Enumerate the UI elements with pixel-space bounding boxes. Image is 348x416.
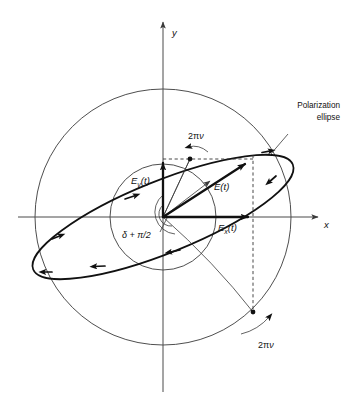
label-field-Ex-arg: (t) xyxy=(228,222,237,233)
label-field-Ey: Ey(t) xyxy=(131,175,150,189)
y-axis-label: y xyxy=(171,27,178,38)
rotation-arrow-lower xyxy=(241,316,270,334)
projection-lines xyxy=(163,155,253,312)
figure-root: y x xyxy=(0,0,348,416)
label-callout-line2: ellipse xyxy=(317,113,341,122)
ellipse-arrow-lower-left xyxy=(93,266,105,267)
callout-leader-line xyxy=(270,134,288,155)
x-axis-label: x xyxy=(323,219,330,230)
label-angular-rate-lower: 2πν xyxy=(258,340,274,350)
label-field-E-arg: (t) xyxy=(220,181,229,192)
rotation-arrow-upper xyxy=(188,146,208,152)
label-callout-line1: Polarization xyxy=(297,101,340,110)
label-field-Ex: Ex(t) xyxy=(218,222,237,235)
ellipse-arrow-right-descend xyxy=(268,176,276,183)
label-angular-rate-lower-nu: ν xyxy=(269,340,274,350)
ellipse-arrow-upper-left xyxy=(125,195,137,199)
label-field-E: E(t) xyxy=(214,181,229,192)
construction-lines xyxy=(155,159,253,312)
coordinate-axes: y x xyxy=(18,22,330,392)
upper-phasor-dot xyxy=(188,157,193,162)
label-angular-rate-lower-coeff: 2π xyxy=(258,340,269,350)
lower-phasor-dot xyxy=(251,310,256,315)
label-angular-rate-upper-coeff: 2π xyxy=(188,131,199,141)
ellipse-arrow-upper-right xyxy=(262,151,272,153)
label-angular-rate-upper: 2πν xyxy=(188,131,204,141)
text-labels: Ey(t) E(t) Ex(t) δ + π/2 2πν 2πν Polariz… xyxy=(122,101,340,350)
label-phase-offset: δ + π/2 xyxy=(122,230,151,240)
phasor-arc-lower xyxy=(163,217,253,312)
callout-leader-group xyxy=(270,134,288,155)
label-field-Ey-arg: (t) xyxy=(141,175,150,186)
polarization-ellipse-diagram: y x xyxy=(0,0,348,416)
label-angular-rate-upper-nu: ν xyxy=(199,131,204,141)
